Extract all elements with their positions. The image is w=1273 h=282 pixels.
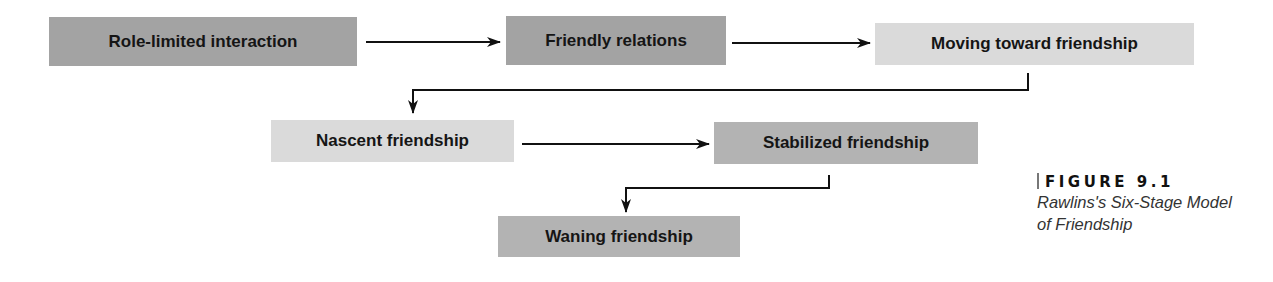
caption-bar (1037, 173, 1039, 189)
stage-label: Waning friendship (545, 227, 693, 247)
stage-moving-toward-friendship: Moving toward friendship (875, 23, 1194, 65)
figure-label: FIGURE 9.1 (1037, 173, 1232, 191)
stage-label: Nascent friendship (316, 131, 469, 151)
stage-nascent-friendship: Nascent friendship (271, 120, 514, 162)
stage-friendly-relations: Friendly relations (506, 16, 726, 65)
stage-label: Moving toward friendship (931, 34, 1138, 54)
figure-title-line2: of Friendship (1037, 214, 1232, 235)
arrow-stabilized-to-waning (626, 175, 829, 212)
stage-stabilized-friendship: Stabilized friendship (714, 122, 978, 164)
stage-label: Friendly relations (545, 31, 687, 51)
stage-label: Role-limited interaction (109, 32, 298, 52)
figure-caption: FIGURE 9.1 Rawlins's Six-Stage Model of … (1037, 173, 1232, 235)
figure-title-line1: Rawlins's Six-Stage Model (1037, 192, 1232, 213)
stage-waning-friendship: Waning friendship (498, 216, 740, 257)
stage-role-limited-interaction: Role-limited interaction (49, 17, 357, 66)
figure-number: FIGURE 9.1 (1045, 173, 1174, 191)
stage-label: Stabilized friendship (763, 133, 929, 153)
arrow-moving-to-nascent (413, 73, 1028, 113)
